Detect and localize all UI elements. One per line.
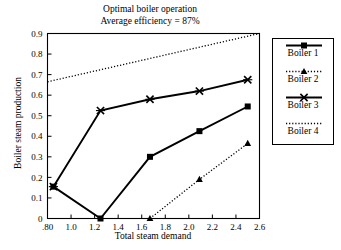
legend-label-2: Boiler 2: [273, 74, 333, 84]
svg-text:.80: .80: [42, 222, 54, 232]
y-axis-label: Boiler steam production: [13, 53, 23, 193]
legend-entry-1[interactable]: Boiler 1: [273, 39, 333, 65]
legend-label-3: Boiler 3: [273, 100, 333, 110]
data-series: [48, 34, 260, 222]
svg-text:2.2: 2.2: [207, 222, 218, 232]
svg-text:0.4: 0.4: [31, 131, 43, 141]
svg-text:1.0: 1.0: [65, 222, 77, 232]
series-2: [147, 140, 252, 221]
series-1: [50, 103, 250, 221]
legend-entry-4[interactable]: Boiler 4: [273, 117, 333, 143]
series-3: [49, 76, 253, 190]
x-axis-label: Total steam demand: [47, 231, 259, 241]
chart-figure: Optimal boiler operation Average efficie…: [0, 0, 341, 250]
axes: [48, 34, 260, 219]
axis-ticks: [48, 34, 260, 219]
svg-text:2.4: 2.4: [230, 222, 242, 232]
legend-label-4: Boiler 4: [273, 126, 333, 136]
legend-label-1: Boiler 1: [273, 48, 333, 58]
legend-entry-2[interactable]: Boiler 2: [273, 65, 333, 91]
svg-text:0.2: 0.2: [31, 173, 42, 183]
svg-text:0.5: 0.5: [31, 111, 43, 121]
svg-text:2.6: 2.6: [254, 222, 266, 232]
series-4: [48, 34, 260, 82]
svg-text:0.3: 0.3: [31, 152, 43, 162]
svg-text:2.0: 2.0: [183, 222, 195, 232]
svg-text:0.7: 0.7: [31, 70, 43, 80]
svg-text:1.2: 1.2: [89, 222, 100, 232]
legend-entry-3[interactable]: Boiler 3: [273, 91, 333, 117]
svg-text:1.6: 1.6: [136, 222, 148, 232]
svg-text:0.9: 0.9: [31, 29, 43, 39]
svg-text:1.8: 1.8: [160, 222, 172, 232]
svg-text:0.6: 0.6: [31, 90, 43, 100]
svg-text:0.8: 0.8: [31, 49, 43, 59]
svg-text:0.1: 0.1: [31, 193, 42, 203]
svg-text:1.4: 1.4: [113, 222, 125, 232]
chart-legend: Boiler 1Boiler 2Boiler 3Boiler 4: [272, 38, 334, 145]
